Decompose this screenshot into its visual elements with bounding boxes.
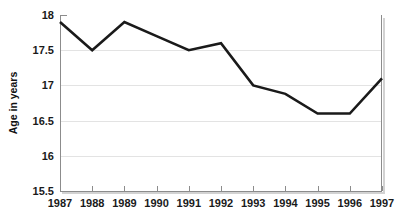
y-axis-title: Age in years	[7, 72, 19, 135]
x-tick-label: 1993	[241, 197, 265, 209]
x-tick-label-group: 1987198819891990199119921993199419951996…	[48, 197, 394, 209]
y-tick-label: 15.5	[33, 185, 54, 197]
x-tick-label: 1987	[48, 197, 72, 209]
y-tick-label: 16.5	[33, 115, 54, 127]
x-tick-label: 1995	[305, 197, 329, 209]
x-tick-label: 1990	[144, 197, 168, 209]
x-tick-label: 1997	[370, 197, 394, 209]
x-tick-label: 1996	[338, 197, 362, 209]
x-tick-label: 1989	[112, 197, 136, 209]
y-tick-label: 18	[42, 9, 54, 21]
x-tick-label: 1992	[209, 197, 233, 209]
x-tick-label: 1988	[80, 197, 104, 209]
line-chart-figure: 15.51616.51717.518 198719881989199019911…	[0, 0, 403, 223]
x-tick-label: 1994	[273, 197, 298, 209]
y-tick-label: 17	[42, 79, 54, 91]
chart-canvas: 15.51616.51717.518 198719881989199019911…	[0, 0, 403, 223]
y-tick-label: 17.5	[33, 44, 54, 56]
x-tick-label: 1991	[177, 197, 201, 209]
y-tick-label: 16	[42, 150, 54, 162]
